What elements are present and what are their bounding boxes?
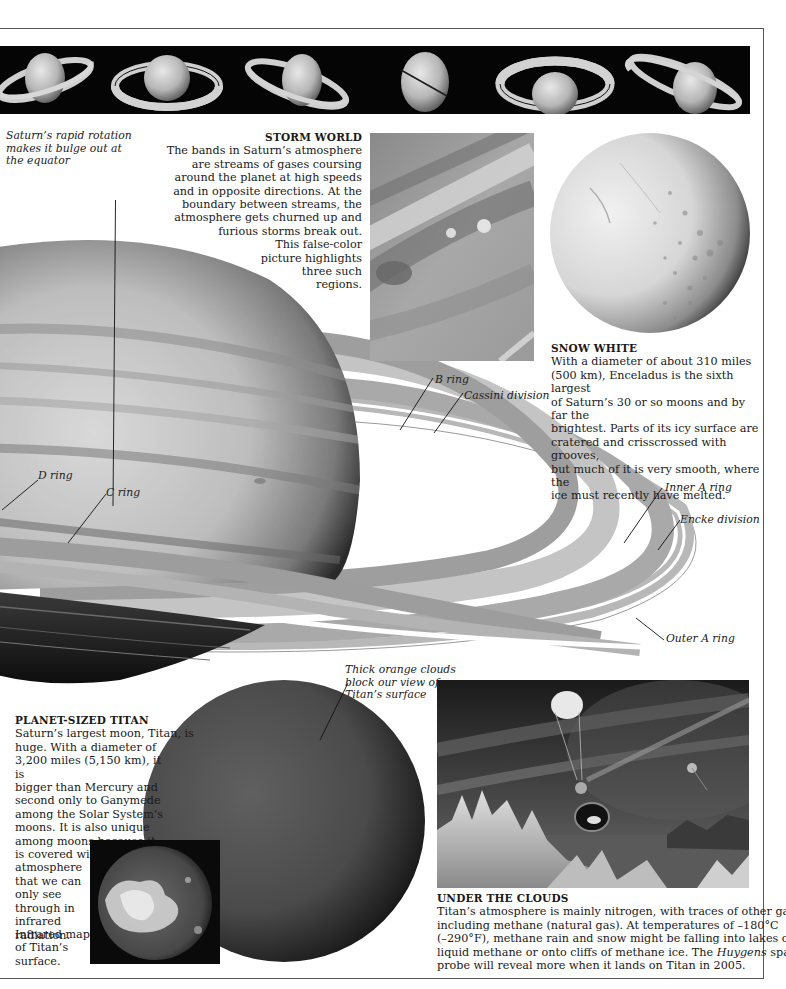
- caption-line: surface.: [15, 955, 95, 968]
- label-b-ring: B ring: [435, 374, 469, 387]
- caption-line: around the planet at high speeds: [160, 171, 362, 184]
- caption-line: This false-color: [160, 238, 362, 251]
- caption-line: and in opposite directions. At the: [160, 185, 362, 198]
- snow-white-caption: SNOW WHITE With a diameter of about 310 …: [551, 342, 763, 503]
- caption-line: Saturn’s largest moon, Titan, is: [15, 727, 170, 740]
- caption-line: among the Solar System’s: [15, 808, 170, 821]
- caption-line: Infrared map: [15, 928, 95, 941]
- caption-text: liquid methane or onto cliffs of methane…: [437, 946, 717, 959]
- caption-line: of Saturn’s 30 or so moons and by far th…: [551, 396, 763, 423]
- caption-line: (500 km), Enceladus is the sixth largest: [551, 369, 763, 396]
- caption-line: atmosphere gets churned up and: [160, 211, 362, 224]
- caption-line: are streams of gases coursing: [160, 158, 362, 171]
- caption-line: of Titan’s: [15, 941, 95, 954]
- caption-line: furious storms break out.: [160, 225, 362, 238]
- caption-line: brightest. Parts of its icy surface are: [551, 422, 763, 435]
- snow-white-title: SNOW WHITE: [551, 342, 763, 355]
- caption-text: space: [767, 946, 786, 959]
- under-the-clouds-title: UNDER THE CLOUDS: [437, 892, 762, 905]
- rotation-note-line: the equator: [6, 155, 132, 168]
- huygens-emphasis: Huygens: [717, 946, 767, 959]
- label-inner-a-ring: Inner A ring: [665, 482, 732, 495]
- planet-sized-titan-title: PLANET-SIZED TITAN: [15, 714, 170, 727]
- storm-world-caption: STORM WORLD The bands in Saturn’s atmosp…: [160, 131, 362, 292]
- titan-infrared-map-image: [90, 840, 220, 964]
- caption-line: picture highlights: [160, 252, 362, 265]
- caption-line: 3,200 miles (5,150 km), it is: [15, 754, 170, 781]
- storm-false-color-image: [370, 133, 534, 361]
- rotation-note: Saturn’s rapid rotation makes it bulge o…: [6, 130, 132, 168]
- caption-line: Titan’s atmosphere is mainly nitrogen, w…: [437, 905, 762, 918]
- caption-line: three such: [160, 265, 362, 278]
- caption-line: second only to Ganymede: [15, 794, 170, 807]
- caption-line: probe will reveal more when it lands on …: [437, 959, 762, 972]
- label-outer-a-ring: Outer A ring: [666, 633, 735, 646]
- huygens-probe-illustration: [437, 680, 749, 888]
- enceladus-moon-image: [550, 133, 751, 334]
- caption-line: (–290°F), methane rain and snow might be…: [437, 932, 762, 945]
- caption-line: moons. It is also unique: [15, 821, 170, 834]
- rotation-note-line: Saturn’s rapid rotation: [6, 130, 132, 143]
- note-line: Thick orange clouds: [345, 664, 456, 677]
- caption-line: regions.: [160, 278, 362, 291]
- caption-line: cratered and crisscrossed with grooves,: [551, 436, 763, 463]
- label-encke-division: Encke division: [680, 514, 760, 527]
- caption-line: liquid methane or onto cliffs of methane…: [437, 946, 762, 959]
- infrared-map-caption: Infrared map of Titan’s surface.: [15, 928, 95, 968]
- caption-line: including methane (natural gas). At temp…: [437, 919, 762, 932]
- caption-line: bigger than Mercury and: [15, 781, 170, 794]
- storm-world-title: STORM WORLD: [160, 131, 362, 144]
- label-cassini-division: Cassini division: [464, 390, 549, 403]
- caption-line: With a diameter of about 310 miles: [551, 355, 763, 368]
- caption-line: The bands in Saturn’s atmosphere: [160, 144, 362, 157]
- caption-line: huge. With a diameter of: [15, 741, 170, 754]
- saturn-phases-image: [0, 46, 750, 114]
- under-the-clouds-caption: UNDER THE CLOUDS Titan’s atmosphere is m…: [437, 892, 762, 972]
- label-c-ring: C ring: [106, 487, 140, 500]
- caption-line: boundary between streams, the: [160, 198, 362, 211]
- label-d-ring: D ring: [38, 470, 73, 483]
- saturn-phases-banner: [0, 46, 750, 114]
